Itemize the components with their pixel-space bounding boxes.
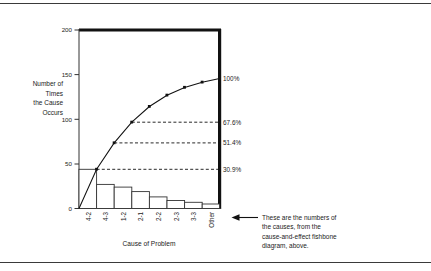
y-tick-label-200: 200 — [62, 26, 73, 33]
bar-4-3 — [97, 184, 115, 208]
pct-label-30-9: 30.9% — [223, 166, 241, 173]
x-label-4-2: 4-2 — [85, 212, 92, 222]
annotation-line-1: These are the numbers of — [262, 214, 337, 221]
y-tick-label-100: 100 — [62, 116, 73, 123]
annotation-text: These are the numbers of the causes, fro… — [262, 214, 337, 251]
y-axis-title-line-3: the Cause — [33, 99, 63, 106]
bar-2-3 — [167, 201, 185, 209]
x-label-1-2: 1-2 — [120, 212, 127, 222]
y-axis-title: Number of Times the Cause Occurs — [33, 80, 64, 116]
cumulative-percent-guides — [97, 122, 218, 169]
x-axis-title: Cause of Problem — [123, 240, 176, 247]
annotation-line-3: cause-and-effect fishbone — [262, 233, 337, 240]
pct-label-100: 100% — [223, 75, 240, 82]
bar-series — [79, 169, 220, 208]
x-label-4-3: 4-3 — [102, 212, 109, 222]
pct-label-51-4: 51.4% — [223, 139, 241, 146]
y-axis-title-line-1: Number of — [33, 80, 64, 87]
bar-2-1 — [132, 192, 150, 209]
y-axis-title-line-2: Times — [46, 90, 64, 97]
bar-2-2 — [149, 197, 167, 209]
x-category-labels: 4-2 4-3 1-2 2-1 2-2 2-3 3-3 Other — [85, 212, 215, 228]
y-axis-title-line-4: Occurs — [42, 109, 63, 116]
x-label-2-1: 2-1 — [137, 212, 144, 222]
plot-frame — [79, 29, 221, 209]
y-tick-label-150: 150 — [62, 71, 73, 78]
y-tick-label-0: 0 — [69, 205, 73, 212]
annotation-line-2: the causes, from the — [262, 223, 321, 230]
x-label-2-3: 2-3 — [173, 212, 180, 222]
annotation-arrow — [232, 214, 259, 221]
x-label-other: Other — [208, 212, 215, 228]
cumulative-markers — [95, 81, 203, 171]
bar-3-3 — [185, 202, 203, 208]
pareto-chart-figure: 0 50 100 150 200 Number of Times the Cau… — [0, 0, 431, 271]
y-axis — [75, 29, 80, 209]
bar-other — [202, 204, 219, 209]
y-tick-label-50: 50 — [65, 160, 72, 167]
bar-1-2 — [114, 187, 132, 208]
pct-label-67-6: 67.6% — [223, 119, 241, 126]
x-label-3-3: 3-3 — [190, 212, 197, 222]
annotation-line-4: diagram, above. — [262, 242, 309, 250]
x-label-2-2: 2-2 — [155, 212, 162, 222]
